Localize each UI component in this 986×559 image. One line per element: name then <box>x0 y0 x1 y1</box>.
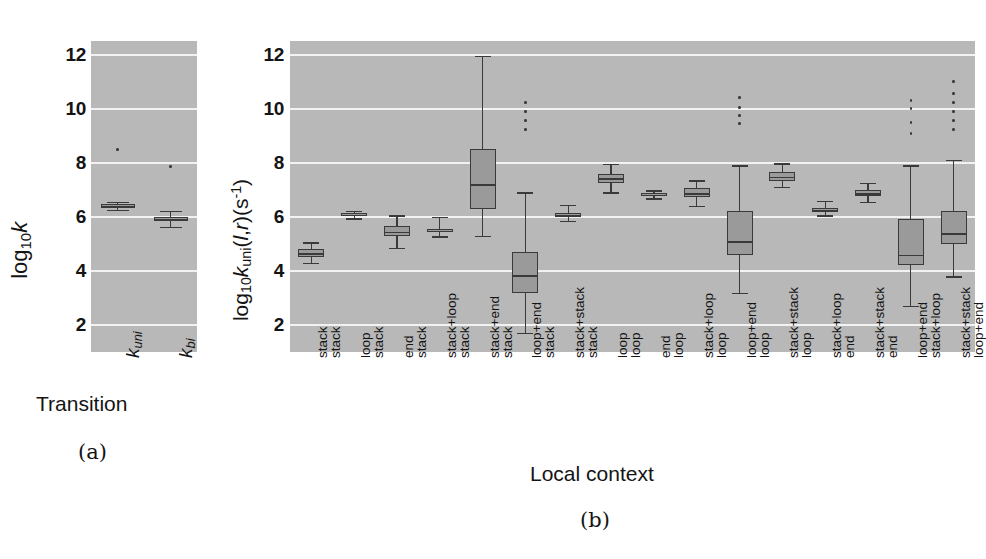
whisker-cap-upper <box>160 211 182 212</box>
y-tick-label-4: 4 <box>230 260 284 282</box>
ylabel-b-exponent: -1 <box>228 186 244 199</box>
x-tick-line: loop <box>629 332 642 358</box>
x-tick-label-stack-loop-stack: stack+loopstack <box>445 293 471 358</box>
x-tick-line: stack <box>329 326 342 358</box>
outlier-point <box>952 128 954 131</box>
x-tick-label-stack-stack-end: stack+stackend <box>873 287 899 358</box>
outlier-point <box>952 80 954 83</box>
x-tick-label-loop-end-stack-loop: loop+endstack+loop <box>916 293 942 358</box>
median-line <box>154 219 188 221</box>
boxplot-kbi <box>91 41 197 352</box>
y-tick-label-4: 4 <box>0 260 86 282</box>
x-tick-label-end-stack: endstack <box>402 326 428 358</box>
panel-b-x-axis-title: Local context <box>530 462 654 486</box>
y-tick-label-2: 2 <box>230 314 284 336</box>
outlier-point <box>952 119 954 122</box>
x-tick-line: loop <box>672 332 685 358</box>
x-tick-line: stack+loop <box>702 293 715 358</box>
whisker-lower <box>953 244 954 276</box>
panel-a-caption: (a) <box>78 440 107 464</box>
x-tick-line: loop <box>800 287 813 358</box>
whisker-upper <box>953 160 954 211</box>
x-tick-label-loop-end-loop: loop+endloop <box>745 302 771 358</box>
y-tick-label-6: 6 <box>0 206 86 228</box>
x-tick-line: stack <box>372 326 385 358</box>
ylabel-b-close: ) <box>229 179 252 186</box>
ylabel-a-ten: 10 <box>17 233 34 250</box>
x-tick-line: loop+end <box>972 287 985 358</box>
outlier-point <box>952 101 954 104</box>
x-tick-line: loop <box>715 293 728 358</box>
x-tick-label-stack-stack-stack: stack+stackstack <box>573 287 599 358</box>
x-tick-line: stack+loop <box>929 293 942 358</box>
whisker-cap-lower <box>946 276 962 277</box>
whisker-cap-upper <box>946 160 962 161</box>
y-tick-label-12: 12 <box>0 44 86 66</box>
whisker-cap-lower <box>160 227 182 228</box>
y-tick-label-10: 10 <box>230 98 284 120</box>
x-tick-label-stack-stack-loop-end: stack+stackloop+end <box>959 287 985 358</box>
x-tick-line: stack <box>501 296 514 358</box>
x-tick-label-loop-stack: loopstack <box>359 326 385 358</box>
median-line <box>941 233 967 235</box>
y-tick-label-10: 10 <box>0 98 86 120</box>
x-tick-line: stack+loop <box>445 293 458 358</box>
outlier-point <box>952 110 954 113</box>
panel-a-plot-inner <box>91 41 197 352</box>
y-tick-label-2: 2 <box>0 314 86 336</box>
panel-b: log10kuni(l,r)(s-1) 24681012 stackstackl… <box>230 0 975 559</box>
x-tick-label-stack-stack: stackstack <box>316 326 342 358</box>
y-tick-label-12: 12 <box>230 44 284 66</box>
x-tick-label-stack-loop-end: stack+loopend <box>830 293 856 358</box>
x-tick-line: stack <box>415 326 428 358</box>
panel-a: log10k 24681012 kunikbi Transition (a) <box>0 0 240 559</box>
x-tick-line: end <box>659 332 672 358</box>
x-tick-line: stack+end <box>488 296 501 358</box>
x-tick-label-kbi: kbi <box>179 338 197 358</box>
panel-a-x-axis-title: Transition <box>36 392 127 416</box>
x-tick-label-stack-stack-loop: stack+stackloop <box>787 287 813 358</box>
x-tick-line: stack+stack <box>959 287 972 358</box>
outlier-point <box>952 92 954 95</box>
y-tick-label-6: 6 <box>230 206 284 228</box>
x-tick-line: loop+end <box>916 293 929 358</box>
panel-a-plot-area <box>91 41 197 352</box>
y-tick-label-8: 8 <box>0 152 86 174</box>
x-tick-line: stack <box>586 287 599 358</box>
x-tick-line: loop+end <box>745 302 758 358</box>
panel-b-y-axis-label: log10kuni(l,r)(s-1) <box>228 179 254 321</box>
x-tick-line: stack <box>543 302 556 358</box>
x-tick-label-loop-end-stack: loop+endstack <box>530 302 556 358</box>
outlier-point <box>169 165 171 168</box>
x-tick-label-stack-loop-loop: stack+looploop <box>702 293 728 358</box>
x-tick-line: end <box>886 287 899 358</box>
panel-b-caption: (b) <box>580 508 610 532</box>
x-tick-line: stack <box>458 293 471 358</box>
y-tick-label-8: 8 <box>230 152 284 174</box>
x-tick-label-stack-end-stack: stack+endstack <box>488 296 514 358</box>
x-tick-line: end <box>843 293 856 358</box>
x-tick-label-end-loop: endloop <box>659 332 685 358</box>
x-tick-label-kuni: kuni <box>126 331 144 358</box>
x-tick-label-loop-loop: looploop <box>616 332 642 358</box>
box <box>941 211 967 243</box>
x-tick-line: loop <box>758 302 771 358</box>
